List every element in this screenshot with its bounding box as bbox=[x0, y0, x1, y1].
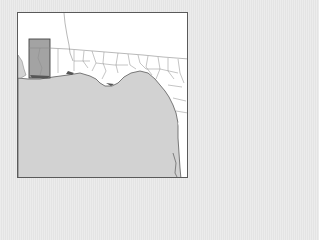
map-canvas bbox=[18, 13, 188, 178]
highlighted-county[interactable] bbox=[29, 39, 50, 78]
map-frame bbox=[17, 12, 188, 178]
gulf-water bbox=[18, 71, 181, 178]
